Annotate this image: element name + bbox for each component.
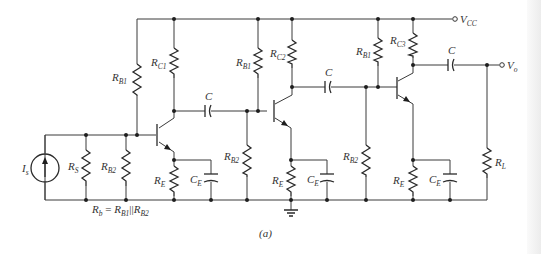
resistor-rb2-stage1 [122,150,130,186]
resistor-rc3 [409,33,417,58]
is-label: Is [21,162,29,177]
rc1-label: RC1 [150,56,167,71]
coupling-capacitor-1 [205,105,211,117]
rb-equation: Rb = RB1||RB2 [91,203,149,218]
three-stage-amplifier-schematic: VCC Vo Is RS RB2 RB1 RC1 C RE CE RB1 RB2… [0,0,541,254]
bypass-capacitor-1 [204,174,218,182]
rb2-stage3-label: RB2 [342,150,358,165]
coupling-capacitor-3 [448,59,454,71]
resistor-rl [483,148,491,178]
resistor-rb2-stage3 [362,145,370,177]
bypass-capacitor-2 [320,174,334,182]
labels: VCC Vo Is RS RB2 RB1 RC1 C RE CE RB1 RB2… [21,13,518,240]
current-source-is [31,135,59,200]
resistor-re-stage3 [409,166,417,196]
coupling-capacitor-2 [325,81,331,93]
rl-label: RL [494,156,506,171]
ce-stage2-label: CE [307,173,319,188]
c1-label: C [205,90,213,102]
c3-label: C [448,44,456,56]
ce-stage1-label: CE [190,173,202,188]
vo-label: Vo [507,59,518,74]
resistor-rb1-stage1 [133,64,141,96]
transistors [157,77,410,150]
rb2-stage2-label: RB2 [223,150,239,165]
rb1-stage2-label: RB1 [235,56,251,71]
rb1-stage3-label: RB1 [355,45,371,60]
resistor-rb1-stage2 [254,48,262,78]
resistors [82,33,491,196]
resistor-re-stage1 [170,166,178,196]
figure-label: (a) [259,227,272,240]
resistor-rb1-stage3 [374,38,382,66]
re-stage2-label: RE [271,174,284,189]
rb2-stage1-label: RB2 [100,160,116,175]
re-stage3-label: RE [392,174,405,189]
ground-icon [284,210,298,216]
page-edge-shadow [527,0,541,254]
rc2-label: RC2 [269,47,286,62]
vcc-label: VCC [460,13,478,28]
resistor-re-stage2 [287,166,295,196]
rc3-label: RC3 [389,34,406,49]
rb1-stage1-label: RB1 [111,71,127,86]
c2-label: C [325,66,333,78]
resistor-rs [82,150,90,186]
ce-stage3-label: CE [429,173,441,188]
bypass-capacitor-3 [443,174,457,182]
resistor-rb2-stage2 [243,145,251,177]
re-stage1-label: RE [153,174,166,189]
resistor-rc2 [288,40,296,68]
vo-terminal [500,63,505,68]
vcc-terminal [453,17,458,22]
rs-label: RS [67,160,79,175]
resistor-rc1 [170,48,178,78]
